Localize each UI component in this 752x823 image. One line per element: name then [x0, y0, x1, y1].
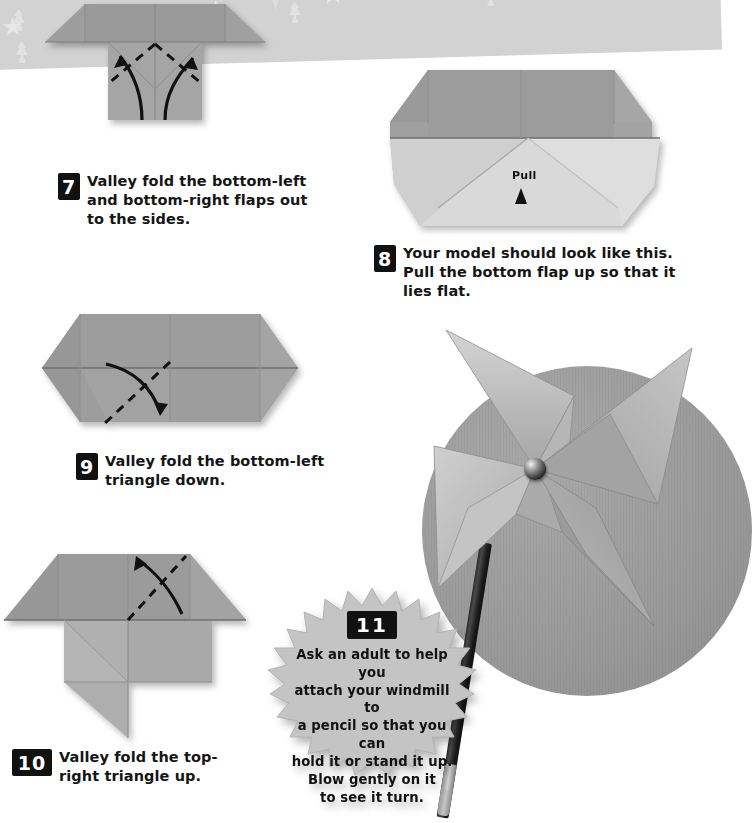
step-number-badge-7: 7 — [58, 173, 80, 200]
step-text-7: Valley fold the bottom-left and bottom-r… — [87, 172, 308, 229]
step-text-10: Valley fold the top- right triangle up. — [59, 748, 218, 786]
step-7-fold-arrows — [30, 0, 280, 169]
step-text-9: Valley fold the bottom-left triangle dow… — [105, 452, 324, 490]
step-9-fold-arrow — [38, 312, 302, 434]
star-icon: ★ — [420, 0, 448, 2]
origami-diagram-step-7 — [30, 0, 280, 169]
pinwheel-center-pin — [524, 458, 546, 480]
step-text-8: Your model should look like this. Pull t… — [403, 244, 704, 301]
star-icon: ★ — [320, 0, 346, 9]
final-step-text: Ask an adult to help you attach your win… — [266, 646, 478, 806]
final-step-starburst: 11 Ask an adult to help you attach your … — [266, 584, 478, 823]
tree-icon — [13, 41, 30, 63]
pull-arrow-icon — [515, 188, 527, 204]
step-caption-8: 8 Your model should look like this. Pull… — [374, 244, 704, 301]
origami-diagram-step-9 — [38, 312, 302, 434]
step-number-badge-8: 8 — [374, 245, 396, 272]
step-number-badge-11: 11 — [347, 611, 397, 639]
step-number-badge-9: 9 — [76, 453, 98, 480]
final-step-content: 11 Ask an adult to help you attach your … — [266, 584, 478, 823]
pull-annotation-label: Pull — [512, 169, 537, 182]
step-caption-9: 9 Valley fold the bottom-left triangle d… — [76, 452, 326, 490]
step-8-paper-svg — [382, 66, 668, 242]
origami-diagram-step-10 — [0, 542, 262, 742]
step-caption-10: 10 Valley fold the top- right triangle u… — [12, 748, 262, 786]
step-10-fold-arrow — [0, 542, 262, 742]
step-caption-7: 7 Valley fold the bottom-left and bottom… — [58, 172, 308, 229]
origami-diagram-step-8: Pull — [382, 66, 668, 242]
step-number-badge-10: 10 — [12, 749, 52, 776]
tree-icon — [482, 0, 499, 6]
tree-icon — [286, 1, 303, 23]
